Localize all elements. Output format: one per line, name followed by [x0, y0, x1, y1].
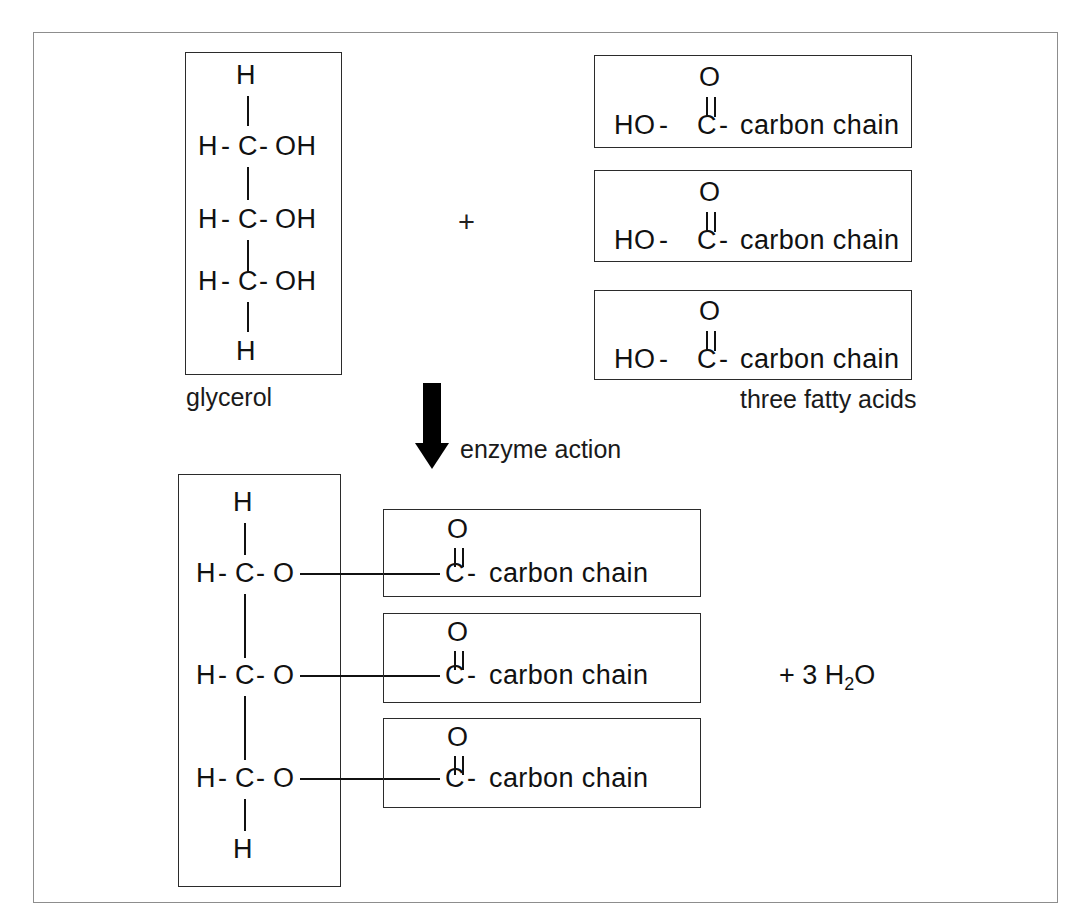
fatty-acid-1-dash-left: -: [659, 112, 668, 139]
glycerol-caption: glycerol: [186, 385, 272, 410]
glycerol-c2-hydroxyl: OH: [275, 206, 316, 233]
glycerol-bond-bottom: [247, 302, 249, 332]
triglyceride-c3-ester-oxygen: O: [273, 765, 294, 792]
fatty-acids-caption: three fatty acids: [740, 387, 916, 412]
acyl-2-link-dash: [413, 675, 440, 677]
acyl-1-dash-right: -: [467, 560, 476, 587]
fatty-acid-3-chain-label: carbon chain: [740, 346, 899, 373]
fatty-acid-3-hydroxyl: HO: [614, 346, 655, 373]
triglyceride-bottom-hydrogen: H: [233, 836, 253, 863]
fatty-acid-2-hydroxyl: HO: [614, 227, 655, 254]
glycerol-c2-dash-left: -: [221, 206, 230, 233]
fatty-acid-2-oxygen: O: [699, 179, 720, 206]
arrow-shaft: [423, 383, 441, 445]
triglyceride-c2-ester-oxygen: O: [273, 662, 294, 689]
acyl-3-link-dash: [413, 778, 440, 780]
water-product: + 3 H2O: [779, 660, 875, 695]
glycerol-c1-hydroxyl: OH: [275, 133, 316, 160]
glycerol-c3-carbon: C: [238, 268, 258, 295]
triglyceride-c1-dash-right: -: [256, 560, 265, 587]
acyl-3-dash-right: -: [467, 765, 476, 792]
glycerol-c1-carbon: C: [238, 133, 258, 160]
acyl-3-chain-label: carbon chain: [489, 765, 648, 792]
triglyceride-c2-dash-right: -: [256, 662, 265, 689]
triglyceride-bond-bottom: [244, 799, 246, 831]
fatty-acid-3-carbon: C: [697, 346, 717, 373]
water-hydrogen: H: [825, 660, 845, 690]
fatty-acid-3-oxygen: O: [699, 298, 720, 325]
glycerol-c3-dash-right: -: [259, 268, 268, 295]
acyl-2-carbon: C: [445, 662, 465, 689]
acyl-2-oxygen: O: [447, 619, 468, 646]
triglyceride-c3-left-hydrogen: H: [196, 765, 216, 792]
triglyceride-c3-dash-right: -: [256, 765, 265, 792]
triglyceride-c2-carbon: C: [235, 662, 255, 689]
acyl-1-oxygen: O: [447, 516, 468, 543]
enzyme-action-arrow: [412, 383, 452, 473]
acyl-1-carbon: C: [445, 560, 465, 587]
triglyceride-c2-left-hydrogen: H: [196, 662, 216, 689]
glycerol-bond-top: [247, 96, 249, 126]
triglyceride-c1-left-hydrogen: H: [196, 560, 216, 587]
triglyceride-c1-ester-oxygen: O: [273, 560, 294, 587]
fatty-acid-2-carbon: C: [697, 227, 717, 254]
fatty-acid-1-oxygen: O: [699, 64, 720, 91]
enzyme-action-label: enzyme action: [460, 437, 621, 462]
glycerol-top-hydrogen: H: [236, 62, 256, 89]
triglyceride-bond-c1-c2: [244, 594, 246, 658]
acyl-2-chain-label: carbon chain: [489, 662, 648, 689]
triglyceride-bond-top: [244, 523, 246, 555]
glycerol-bottom-hydrogen: H: [236, 338, 256, 365]
fatty-acid-1-hydroxyl: HO: [614, 112, 655, 139]
glycerol-c2-dash-right: -: [259, 206, 268, 233]
glycerol-c3-hydroxyl: OH: [275, 268, 316, 295]
triglyceride-c3-dash-left: -: [218, 765, 227, 792]
glycerol-c3-left-hydrogen: H: [198, 268, 218, 295]
acyl-3-carbon: C: [445, 765, 465, 792]
triglyceride-c3-carbon: C: [235, 765, 255, 792]
fatty-acid-1-carbon: C: [697, 112, 717, 139]
glycerol-c1-dash-left: -: [221, 133, 230, 160]
fatty-acid-2-dash-left: -: [659, 227, 668, 254]
acyl-2-dash-right: -: [467, 662, 476, 689]
fatty-acid-3-dash-right: -: [719, 346, 728, 373]
water-coefficient: 3: [802, 660, 817, 690]
acyl-1-chain-label: carbon chain: [489, 560, 648, 587]
diagram-canvas: H H - C - OH H - C - OH H - C - OH H gly…: [0, 0, 1083, 922]
triglyceride-c1-carbon: C: [235, 560, 255, 587]
fatty-acid-3-dash-left: -: [659, 346, 668, 373]
water-subscript: 2: [844, 674, 854, 694]
glycerol-bond-c1-c2: [247, 167, 249, 200]
triglyceride-c1-dash-left: -: [218, 560, 227, 587]
water-oxygen: O: [854, 660, 875, 690]
fatty-acid-2-chain-label: carbon chain: [740, 227, 899, 254]
arrow-head: [415, 443, 449, 469]
glycerol-c2-carbon: C: [238, 206, 258, 233]
triglyceride-top-hydrogen: H: [233, 489, 253, 516]
reaction-plus-sign: +: [458, 208, 475, 237]
acyl-3-oxygen: O: [447, 724, 468, 751]
fatty-acid-1-chain-label: carbon chain: [740, 112, 899, 139]
glycerol-c1-dash-right: -: [259, 133, 268, 160]
fatty-acid-1-dash-right: -: [719, 112, 728, 139]
triglyceride-bond-c2-c3: [244, 696, 246, 760]
fatty-acid-2-dash-right: -: [719, 227, 728, 254]
acyl-1-link-dash: [413, 573, 440, 575]
triglyceride-c2-dash-left: -: [218, 662, 227, 689]
glycerol-c1-left-hydrogen: H: [198, 133, 218, 160]
water-plus: +: [779, 660, 795, 690]
glycerol-c2-left-hydrogen: H: [198, 206, 218, 233]
glycerol-c3-dash-left: -: [221, 268, 230, 295]
